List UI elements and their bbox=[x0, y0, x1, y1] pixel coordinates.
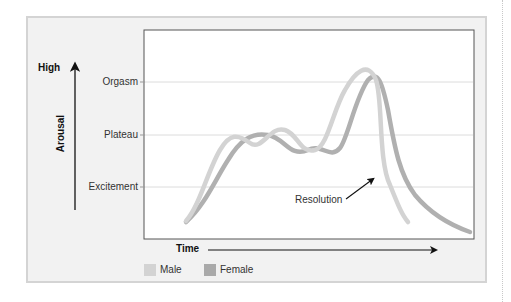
legend-label-female: Female bbox=[220, 264, 253, 275]
resolution-annotation: Resolution bbox=[295, 194, 342, 205]
y-level-plateau: Plateau bbox=[68, 129, 138, 140]
y-level-excitement: Excitement bbox=[68, 181, 138, 192]
legend-swatch-male bbox=[144, 264, 156, 276]
y-axis-high-label: High bbox=[38, 62, 60, 73]
legend-label-male: Male bbox=[160, 264, 182, 275]
chart-canvas bbox=[0, 0, 511, 302]
y-level-orgasm: Orgasm bbox=[68, 76, 138, 87]
x-axis-title: Time bbox=[176, 243, 199, 254]
y-axis-title: Arousal bbox=[55, 104, 66, 164]
legend-swatch-female bbox=[204, 264, 216, 276]
